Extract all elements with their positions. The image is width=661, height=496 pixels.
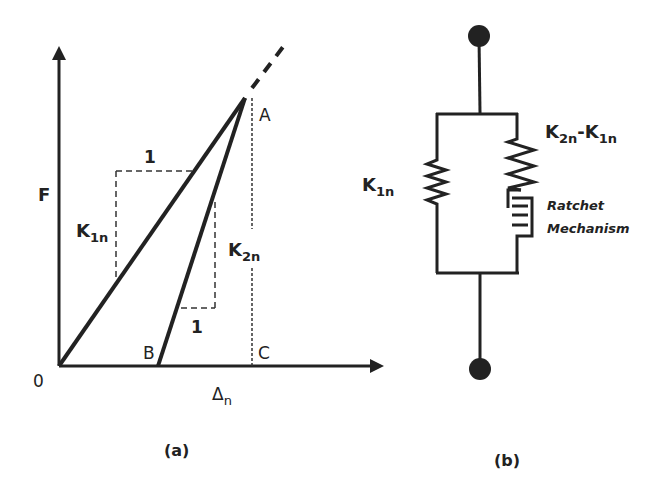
point-b-label: B (143, 343, 155, 363)
panel-a-caption: (a) (164, 441, 189, 460)
k1n-label: K1n (76, 220, 108, 245)
x-axis-arrow-icon (370, 359, 384, 373)
left-spring-label: K1n (362, 174, 394, 199)
origin-label: 0 (33, 371, 44, 391)
k2n-run-label: 1 (191, 317, 203, 337)
left-spring-k1n-icon (427, 113, 446, 273)
figure: F 0 A B C 1 1 K1n K2n Δn (a) (0, 0, 661, 496)
bottom-node-icon (469, 358, 491, 380)
ratchet-mechanism-icon (508, 190, 532, 273)
top-rod (479, 36, 480, 113)
k1n-run-label: 1 (144, 147, 156, 167)
k2n-label: K2n (228, 239, 260, 264)
point-c-label: C (258, 343, 270, 363)
ratchet-label-line1: Ratchet (547, 198, 605, 213)
y-axis-arrow-icon (52, 46, 66, 60)
point-a-label: A (259, 105, 271, 125)
panel-b-caption: (b) (494, 451, 520, 470)
extension-dashed-line (252, 47, 283, 88)
right-spring-label: K2n-K1n (545, 121, 617, 146)
ratchet-label-line2: Mechanism (547, 221, 629, 236)
right-spring-k2n-k1n-icon (508, 113, 534, 190)
x-axis-label: Δn (212, 384, 232, 408)
y-axis-label: F (38, 184, 50, 205)
panel-b-spring-model: K1n K2n-K1n Ratchet Mechanism (b) (362, 25, 629, 470)
panel-a-force-displacement-plot: F 0 A B C 1 1 K1n K2n Δn (a) (33, 46, 384, 460)
